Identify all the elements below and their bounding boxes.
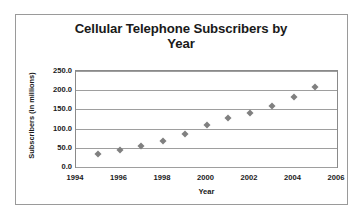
x-axis-tick-labels: 1994199619982000200220042006 [75,173,338,185]
data-point [181,130,188,137]
y-axis-tick-labels: 0.050.0100.0150.0200.0250.0 [32,70,72,168]
plot-area [75,70,338,168]
data-point [116,147,123,154]
x-axis-tick-label: 2006 [328,173,345,182]
data-point [290,94,297,101]
y-axis-tick-label: 50.0 [36,142,72,151]
y-axis-tick-label: 100.0 [36,123,72,132]
x-axis-tick-label: 2000 [197,173,214,182]
gridline [76,90,337,91]
chart-title: Cellular Telephone Subscribers by Year [36,21,326,51]
chart-title-line-2: Year [36,36,326,51]
gridline [76,71,337,72]
chart-figure: Cellular Telephone Subscribers by Year S… [15,14,348,205]
gridline [76,109,337,110]
x-axis-tick-label: 2002 [241,173,258,182]
data-point [94,150,101,157]
x-axis-label: Year [75,187,338,196]
x-axis-tick-label: 1998 [154,173,171,182]
data-point [203,121,210,128]
data-point [225,114,232,121]
y-axis-tick-label: 150.0 [36,104,72,113]
y-axis-tick-label: 250.0 [36,66,72,75]
gridline [76,148,337,149]
data-point [159,137,166,144]
x-axis-tick-label: 1994 [67,173,84,182]
y-axis-tick-label: 200.0 [36,85,72,94]
gridline [76,167,337,168]
x-axis-tick-label: 1996 [110,173,127,182]
y-axis-tick-label: 0.0 [36,162,72,171]
chart-title-line-1: Cellular Telephone Subscribers by [36,21,326,36]
x-axis-tick-label: 2004 [284,173,301,182]
